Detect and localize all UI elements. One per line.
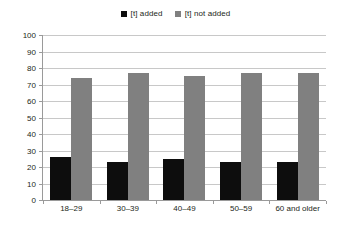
bar-not-added [71,78,92,200]
bar-added [163,159,184,200]
y-tick-label: 100 [8,31,36,40]
x-tick-label: 18–29 [43,204,100,213]
bar-group [100,35,157,200]
plot-area-wrapper [42,35,326,201]
y-tick-label: 90 [8,48,36,57]
bar-not-added [128,73,149,200]
x-tick-label: 60 and older [269,204,326,213]
bar-series-container [43,35,326,200]
bar-added [107,162,128,200]
bar-group [43,35,100,200]
x-tick-label: 50–59 [213,204,270,213]
bar-group [269,35,326,200]
y-tick-label: 30 [8,147,36,156]
chart-legend: [t] added [t] not added [0,7,351,21]
plot-area [42,35,326,201]
x-axis-labels: 18–2930–3940–4950–5960 and older [43,204,326,213]
x-tick-label: 30–39 [100,204,157,213]
y-tick-label: 10 [8,180,36,189]
x-tick-label: 40–49 [156,204,213,213]
y-tick-label: 40 [8,130,36,139]
y-tick-label: 70 [8,81,36,90]
gray-square-swatch [175,11,181,17]
legend-label-not-added: [t] not added [185,10,231,18]
y-tick-label: 80 [8,64,36,73]
legend-label-added: [t] added [131,10,163,18]
black-square-swatch [121,11,127,17]
bar-group [156,35,213,200]
bar-added [50,157,71,200]
y-axis-line [42,35,43,201]
x-axis-line [42,200,326,201]
y-tick-label: 50 [8,114,36,123]
bar-chart: [t] added [t] not added 18–2930–3940–495… [0,0,351,236]
bar-not-added [184,76,205,200]
bar-added [220,162,241,200]
bar-added [277,162,298,200]
bar-not-added [241,73,262,200]
bar-group [213,35,270,200]
y-tick-label: 20 [8,163,36,172]
legend-item-added: [t] added [121,10,163,18]
legend-item-not-added: [t] not added [175,10,231,18]
y-tick-label: 0 [8,196,36,205]
y-tick-label: 60 [8,97,36,106]
bar-not-added [298,73,319,200]
x-tick-mark [326,201,327,204]
